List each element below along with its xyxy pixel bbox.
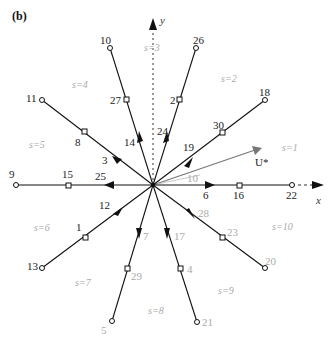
sector-label: s=6 <box>34 222 50 233</box>
node-label: 30 <box>213 119 225 131</box>
sector-label: s=10 <box>272 221 293 232</box>
gray-label-10: 10 <box>187 172 199 184</box>
node-label: 22 <box>286 189 297 201</box>
arrow-label: 28 <box>198 207 210 219</box>
node-label: 27 <box>110 94 122 106</box>
node-label: 8 <box>75 136 81 148</box>
sector-label: s=1 <box>282 142 298 153</box>
sector-label: s=9 <box>218 285 234 296</box>
sector-label: s=4 <box>72 79 88 90</box>
node-label: 9 <box>9 168 15 180</box>
node-label: 10 <box>100 34 112 46</box>
panel-label: (b) <box>12 9 27 23</box>
arrow-label: 24 <box>157 125 169 137</box>
node-label: 1 <box>76 221 82 233</box>
node-label: 5 <box>101 324 107 336</box>
u-star-vector: U* <box>153 146 268 185</box>
arrow-label: 25 <box>95 170 107 182</box>
sector-label: s=8 <box>148 305 164 316</box>
y-axis: y <box>149 14 165 185</box>
diagram-figure: (b) y x U* 10 <box>0 0 328 341</box>
u-star-label: U* <box>255 156 268 168</box>
arrow-label: 3 <box>102 154 108 166</box>
x-axis-label: x <box>315 194 321 206</box>
sector-label: s=2 <box>221 73 237 84</box>
node-label: 4 <box>187 263 193 275</box>
arrow-label: 6 <box>203 189 209 201</box>
node-label: 15 <box>62 168 74 180</box>
node-label: 20 <box>265 255 277 267</box>
node-label: 11 <box>26 92 37 104</box>
node-label: 29 <box>131 270 143 282</box>
node-label: 18 <box>259 86 271 98</box>
diagram-canvas: (b) y x U* 10 <box>0 0 328 341</box>
arrow-label: 14 <box>124 136 136 148</box>
arrow-label: 7 <box>143 230 149 242</box>
arrow-label: 12 <box>99 199 110 211</box>
node-label: 21 <box>202 316 213 328</box>
node-label: 26 <box>193 34 205 46</box>
y-axis-label: y <box>159 14 165 26</box>
node-label: 2 <box>170 94 176 106</box>
node-label: 23 <box>227 226 239 238</box>
node-label: 16 <box>233 189 245 201</box>
sector-label: s=5 <box>29 139 45 150</box>
node-label: 13 <box>27 260 39 272</box>
arrow-label: 17 <box>174 230 186 242</box>
sector-label: s=7 <box>75 277 92 288</box>
sector-label: s=3 <box>144 42 160 53</box>
arrow-label: 19 <box>183 141 195 153</box>
